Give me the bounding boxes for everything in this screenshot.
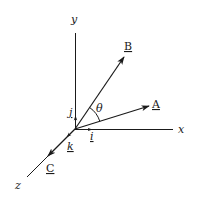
unit-vector-k-label: k [67, 140, 74, 153]
theta-label: θ [96, 102, 103, 115]
vector-C-label: C [46, 162, 54, 175]
unit-vector-j-label: j [66, 106, 73, 119]
vector-A-label: A [151, 98, 161, 111]
y-axis-label: y [70, 13, 78, 26]
vector-B-label: B [124, 40, 132, 53]
diagram-svg: y x z B A C j i k θ [0, 0, 199, 198]
vector-diagram: y x z B A C j i k θ [0, 0, 199, 198]
x-axis-label: x [178, 123, 185, 136]
z-axis-label: z [14, 179, 21, 192]
vector-B [75, 57, 124, 129]
unit-vector-i-label: i [90, 130, 94, 143]
vector-A [75, 106, 149, 129]
